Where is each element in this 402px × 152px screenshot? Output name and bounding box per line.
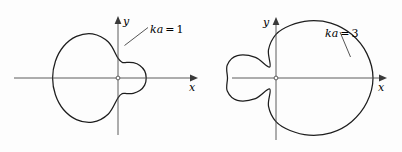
right-ka-symbol: ka (325, 27, 338, 40)
left-origin-dot (116, 76, 120, 80)
right-ka-value: 3 (351, 27, 358, 40)
left-x-axis (14, 75, 198, 82)
left-y-axis-label: y (123, 15, 129, 28)
figure-container: x y ka=1 x y ka=3 (0, 0, 402, 152)
left-y-axis (115, 16, 122, 135)
left-ka-symbol: ka (150, 23, 163, 36)
left-x-axis-label: x (189, 81, 195, 94)
left-equals-symbol: = (165, 23, 174, 36)
left-leader-line (125, 28, 149, 46)
right-ka-annotation: ka=3 (325, 22, 358, 41)
right-x-axis-label: x (378, 81, 384, 94)
right-x-axis (232, 75, 387, 82)
left-ka-value: 1 (176, 23, 183, 36)
right-origin-dot (274, 76, 278, 80)
right-y-axis-label: y (263, 16, 269, 29)
plot-right-ka3 (232, 17, 387, 140)
left-ka-annotation: ka=1 (150, 18, 183, 37)
right-equals-symbol: = (340, 27, 349, 40)
